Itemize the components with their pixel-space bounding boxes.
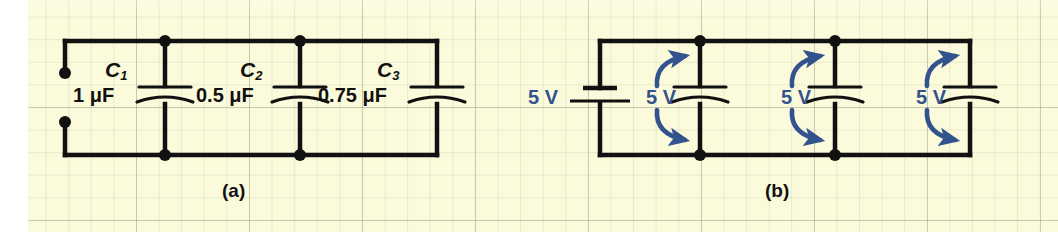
capacitor-b3-plate-curved [942,97,998,102]
voltage-arrow-up-2 [792,56,820,86]
source-voltage-label: 5 V [528,86,558,109]
panel-b-label: (b) [765,180,789,202]
voltage-arrow-down-1 [657,110,685,140]
junction-dot [829,35,841,47]
voltage-arrow-down-3 [927,110,955,140]
voltage-arrow-up-3 [927,56,955,86]
figure-root: C1 1 μF C2 0.5 μF C3 0.75 μF (a) [0,0,1058,239]
capacitor-b2-plate-curved [807,97,863,102]
junction-dot [829,149,841,161]
voltage-arrow-up-1 [657,56,685,86]
capacitor-b3-voltage-label: 5 V [916,86,946,109]
panel-b-schematic [0,0,1058,239]
capacitor-b1-voltage-label: 5 V [646,86,676,109]
voltage-arrow-down-2 [792,110,820,140]
capacitor-b1-plate-curved [672,97,728,102]
capacitor-b2-voltage-label: 5 V [781,86,811,109]
junction-dot [694,35,706,47]
junction-dot [694,149,706,161]
